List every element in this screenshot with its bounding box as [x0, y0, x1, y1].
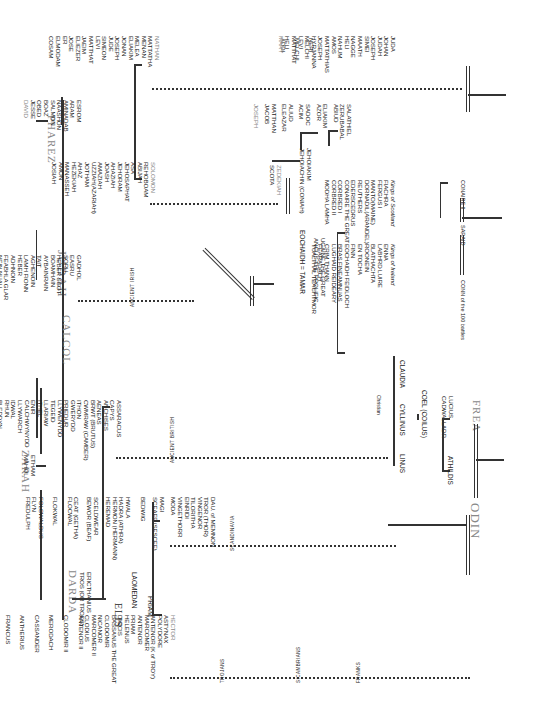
- conn-saraid-link: [460, 235, 464, 275]
- trojans-label: TROJANS: [220, 658, 225, 683]
- gallam-diagonal: [203, 248, 255, 300]
- scand-divider: [170, 545, 396, 547]
- kings-bracket-bottom: [337, 352, 345, 354]
- solomon-divider: [150, 203, 278, 205]
- frea-odin-cross: [476, 459, 504, 461]
- nathan-divider: [152, 88, 462, 90]
- scand-bracket-top: [152, 520, 160, 522]
- pharez-bar: [61, 97, 63, 125]
- coel-label: COEL (COILUS): [421, 390, 428, 438]
- ancient-britons-label: ANCIENT BRITISH: [170, 417, 175, 463]
- pharez-line: ESROMARAMAMINADABNAASHONSALMONBOAZOBEDJE…: [23, 100, 82, 132]
- nathan-line: NATHANMATTATHAMENANMELEAELIAKIMJONANJOSE…: [48, 36, 160, 67]
- trojan-divider: [170, 677, 470, 679]
- zedekiah-bracket: [272, 160, 300, 162]
- darda-connector: [72, 598, 106, 600]
- laomedan-label: LAOMEDAN: [131, 572, 138, 608]
- mary-joseph-cross: [468, 94, 506, 96]
- calcol-divider: [78, 300, 194, 302]
- zedekiah-double: [286, 178, 290, 214]
- mary-joseph-link: [466, 66, 470, 112]
- coel-tick: [417, 414, 419, 420]
- gallam-line: [250, 276, 254, 306]
- jehoiakim-line: JEHOIAKIMJEHOIACHIN (CONIAH): [299, 148, 312, 213]
- scotland-bracket-top: [440, 182, 448, 184]
- saraid-cross: [462, 217, 502, 219]
- fredulph-odin-line: [388, 524, 466, 526]
- odin-descent: [466, 515, 470, 575]
- cyllinus-label: CYLLINUS: [399, 404, 406, 436]
- lucius-bracket-top: [442, 418, 450, 420]
- zarah-connector: [36, 465, 46, 467]
- franks-label: FRANKS: [356, 662, 361, 683]
- salathiel-line: SALATHIELZERUBABALABIUDELIAKIMAZORSADOCA…: [253, 104, 352, 140]
- lucius-bracket: [442, 418, 444, 470]
- linus-label: LINUS: [399, 454, 406, 473]
- solomon-line: SOLOMONREHOBOAMABIJAHASAJEHOSAPHATJEHORA…: [51, 162, 157, 214]
- salathiel-bracket-v: [328, 130, 330, 146]
- scotland-bracket: [440, 182, 441, 218]
- claudia-label: CLAUDIA: [399, 360, 406, 388]
- trojans-line: HECTORASTYNAXPOLYDOREANTENOR (K of TROY)…: [0, 615, 176, 683]
- britons-line: ASSARACUSCAPYSANCHISESAENEASBRWT (BRUTUS…: [0, 400, 122, 460]
- scandinavia-line: DAU. of MEMNONTROR (THOR)VINGENORTILORIT…: [24, 497, 216, 560]
- scand-bracket: [152, 520, 154, 610]
- frea-odin-link: [474, 424, 478, 498]
- calcol-line: GADHOLEASRUSORUHEBER SCOTBOAMHAINAYBAINR…: [0, 255, 82, 300]
- ancient-irish-label: ANCIENT IRISH: [130, 268, 135, 307]
- britons-divider: [116, 457, 388, 459]
- darda-label: DARDA: [67, 570, 79, 614]
- gallam-cross: [254, 283, 274, 285]
- kings-scotland: Kings of Scotland FIACHRAFERGUS IMANTO(M…: [323, 180, 396, 244]
- scandinavia-label: SCANDINAVIA: [230, 515, 235, 551]
- zedekiah-line: ZEDEKIAHSCOTA: [269, 165, 282, 195]
- kings-ireland: Kings of Ireland ENNALABHRD LUIREBLATHAC…: [310, 244, 396, 314]
- nathan-line-2: JUDAJOHANJUDAHJOSEPHSIMEIMAATHNAGGEHELIN…: [277, 36, 396, 73]
- conn-label: CONN of the 100 battles: [460, 280, 466, 340]
- cyllinus-bar: [393, 356, 395, 466]
- kings-bracket: [337, 232, 338, 352]
- eochaidh-tamar: EOCHAIDH = TAMAR: [299, 230, 306, 294]
- calcol-label: CALCOL: [61, 315, 73, 365]
- christian-note: Christian: [376, 395, 382, 415]
- sicambrians-label: SICAMBRIANS: [296, 646, 301, 683]
- athildis-label: ATHILDIS: [447, 456, 454, 485]
- britons-bracket-top: [102, 406, 110, 408]
